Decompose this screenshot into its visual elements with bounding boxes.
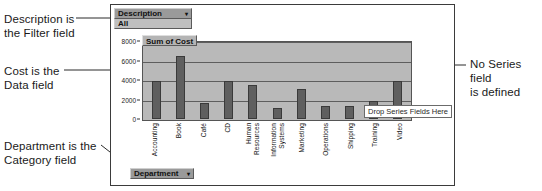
- bar[interactable]: [152, 81, 161, 119]
- x-axis-tick-label: CD: [224, 123, 232, 133]
- x-axis-label-slot: Information Systems: [265, 123, 290, 169]
- bar-slot: [168, 43, 192, 119]
- y-axis-tick-mark: [137, 41, 140, 42]
- bar-slot: [241, 43, 265, 119]
- pivot-chart-frame: Description ▾ All Sum of Cost 0200040006…: [110, 4, 455, 186]
- bar-slot: [265, 43, 289, 119]
- bar[interactable]: [248, 85, 257, 119]
- x-axis-label-slot: Book: [167, 123, 192, 169]
- y-axis-tick-label: 6000: [122, 57, 136, 64]
- series-drop-zone[interactable]: Drop Series Fields Here: [364, 105, 452, 118]
- bar[interactable]: [224, 81, 233, 119]
- x-axis-tick-label: Marketing: [298, 123, 306, 152]
- filter-field-area: Description ▾ All: [114, 8, 192, 29]
- y-axis-tick-label: 4000: [122, 77, 136, 84]
- x-axis-label-slot: Operations: [314, 123, 339, 169]
- category-field-area: Department ▾: [130, 168, 194, 179]
- y-axis-tick-mark: [137, 60, 140, 61]
- chevron-down-icon: ▾: [187, 171, 190, 177]
- x-axis-label-slot: Accounting: [142, 123, 167, 169]
- bar-slot: [217, 43, 241, 119]
- x-axis-tick-label: Operations: [322, 123, 330, 156]
- x-axis-tick-label: Human Resources: [245, 123, 260, 155]
- filter-field-label: Description: [118, 8, 162, 19]
- y-axis-tick-label: 0: [132, 116, 136, 123]
- x-axis-label-slot: CD: [216, 123, 241, 169]
- bar[interactable]: [176, 56, 185, 119]
- filter-field-button[interactable]: Description ▾: [114, 8, 192, 19]
- x-axis-tick-label: Training: [371, 123, 379, 147]
- x-axis-label-slot: Marketing: [289, 123, 314, 169]
- annotation-no-series-field: No Series field is defined: [470, 57, 542, 99]
- y-axis-tick-mark: [137, 99, 140, 100]
- x-axis-label-slot: Video: [387, 123, 412, 169]
- category-field-label: Department: [134, 168, 178, 179]
- bar[interactable]: [273, 108, 282, 119]
- category-field-button[interactable]: Department ▾: [130, 168, 194, 179]
- bar-slot: [313, 43, 337, 119]
- x-axis-tick-label: Information Systems: [270, 123, 285, 157]
- x-axis-tick-label: Book: [175, 123, 183, 138]
- bar-slot: [192, 43, 216, 119]
- bar[interactable]: [345, 106, 354, 119]
- x-axis-label-slot: Café: [191, 123, 216, 169]
- chevron-down-icon: ▾: [185, 11, 188, 17]
- bar-slot: [144, 43, 168, 119]
- x-axis-label-slot: Human Resources: [240, 123, 265, 169]
- annotation-department-category-field: Department is the Category field: [4, 139, 116, 167]
- x-axis-category-labels: AccountingBookCaféCDHuman ResourcesInfor…: [142, 123, 412, 169]
- bar[interactable]: [200, 103, 209, 119]
- x-axis-tick-label: Shipping: [347, 123, 355, 149]
- y-axis-tick-mark: [137, 80, 140, 81]
- filter-field-value[interactable]: All: [114, 19, 192, 29]
- bar-slot: [338, 43, 362, 119]
- x-axis-label-slot: Training: [363, 123, 388, 169]
- annotation-cost-data-field: Cost is the Data field: [4, 64, 108, 92]
- y-axis-tick-mark: [137, 119, 140, 120]
- bar-slot: [289, 43, 313, 119]
- bar[interactable]: [297, 89, 306, 119]
- data-field-caption[interactable]: Sum of Cost: [142, 35, 197, 46]
- y-axis-tick-label: 2000: [122, 96, 136, 103]
- annotation-description-filter-field: Description is the Filter field: [4, 12, 108, 40]
- x-axis-tick-label: Accounting: [151, 123, 159, 156]
- x-axis-tick-label: Café: [200, 123, 208, 137]
- bar[interactable]: [321, 106, 330, 119]
- x-axis-tick-label: Video: [396, 123, 404, 140]
- x-axis-label-slot: Shipping: [338, 123, 363, 169]
- y-axis-tick-label: 8000: [122, 38, 136, 45]
- y-axis: 02000400060008000: [111, 35, 140, 127]
